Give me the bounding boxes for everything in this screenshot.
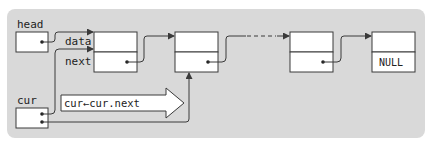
cur-label: cur [17,94,37,107]
diagram-panel [7,9,425,138]
data-field-label: data [65,35,92,48]
cur-box [16,108,48,128]
linked-list-diagram: head data next NULL cur [0,0,430,143]
null-label: NULL [379,57,403,68]
node-1-data [94,32,137,52]
node-4: NULL [372,32,415,72]
node-2-data [175,32,218,52]
head-label: head [17,18,44,31]
node-3-data [290,32,333,52]
node-4-data [372,32,415,52]
next-field-label: next [65,55,92,68]
step-label: cur←cur.next [64,97,140,109]
